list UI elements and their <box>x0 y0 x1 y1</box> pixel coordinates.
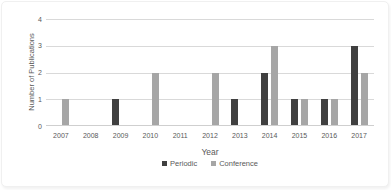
legend-swatch-conference <box>211 161 216 166</box>
bar-periodic-2014 <box>261 73 268 126</box>
bar-periodic-2009 <box>112 99 119 125</box>
bar-periodic-2015 <box>291 99 298 125</box>
bar-periodic-2013 <box>231 99 238 125</box>
x-axis-line <box>46 125 374 126</box>
x-tick-label-2009: 2009 <box>106 131 136 140</box>
x-tick-label-2008: 2008 <box>76 131 106 140</box>
bar-conference-2012 <box>212 73 219 126</box>
x-tick-label-2010: 2010 <box>135 131 165 140</box>
x-tick-label-2007: 2007 <box>46 131 76 140</box>
legend-item-conference: Conference <box>211 159 258 168</box>
bar-conference-2017 <box>361 73 368 126</box>
legend-label-periodic: Periodic <box>170 159 197 168</box>
bar-conference-2016 <box>331 99 338 125</box>
legend-label-conference: Conference <box>219 159 258 168</box>
y-tick-label-3: 3 <box>28 41 42 50</box>
bar-conference-2007 <box>62 99 69 125</box>
x-tick-label-2014: 2014 <box>255 131 285 140</box>
x-axis-title: Year <box>46 147 374 157</box>
x-tick-label-2011: 2011 <box>165 131 195 140</box>
plot-area <box>46 19 374 126</box>
gridline-y4 <box>46 19 374 20</box>
bar-conference-2015 <box>301 99 308 125</box>
x-tick-label-2015: 2015 <box>284 131 314 140</box>
legend-swatch-periodic <box>162 161 167 166</box>
bar-periodic-2017 <box>351 46 358 125</box>
x-tick-label-2017: 2017 <box>344 131 374 140</box>
bar-conference-2010 <box>152 73 159 126</box>
x-tick-label-2012: 2012 <box>195 131 225 140</box>
gridline-y3 <box>46 46 374 47</box>
x-tick-label-2016: 2016 <box>314 131 344 140</box>
legend-item-periodic: Periodic <box>162 159 197 168</box>
y-tick-label-2: 2 <box>28 68 42 77</box>
x-tick-label-2013: 2013 <box>225 131 255 140</box>
bar-periodic-2016 <box>321 99 328 125</box>
legend: PeriodicConference <box>46 159 374 168</box>
bar-conference-2014 <box>271 46 278 125</box>
gridline-y2 <box>46 73 374 74</box>
chart: Number of Publications 01234 20072008200… <box>0 0 391 190</box>
y-tick-label-4: 4 <box>28 15 42 24</box>
y-tick-label-0: 0 <box>28 122 42 131</box>
y-tick-label-1: 1 <box>28 95 42 104</box>
